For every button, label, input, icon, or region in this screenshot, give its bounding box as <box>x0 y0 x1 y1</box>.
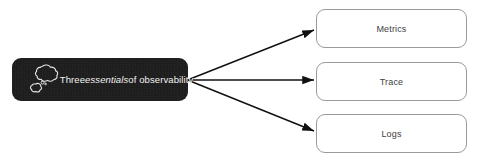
root-node-label: Three essentials of observability <box>65 58 188 101</box>
thought-bubble-icon <box>26 62 64 98</box>
leaf-label-trace: Trace <box>380 77 403 87</box>
connector-root-to-metrics <box>190 30 314 79</box>
root-label-suffix: of observability <box>128 74 193 85</box>
root-label-prefix: Three <box>60 74 85 85</box>
leaf-box-logs[interactable]: Logs <box>316 114 467 153</box>
connector-root-to-logs <box>190 81 314 131</box>
root-label-emphasis: essentials <box>85 74 128 85</box>
leaf-label-logs: Logs <box>381 129 401 139</box>
leaf-box-trace[interactable]: Trace <box>316 62 467 101</box>
leaf-label-metrics: Metrics <box>376 24 406 34</box>
leaf-box-metrics[interactable]: Metrics <box>316 9 467 48</box>
root-node[interactable]: Three essentials of observability <box>12 58 188 101</box>
diagram-canvas: Three essentials of observability Metric… <box>0 0 478 160</box>
